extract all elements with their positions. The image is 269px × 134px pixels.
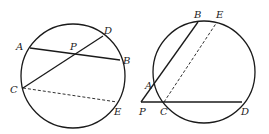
point-label-c: C (160, 106, 168, 117)
point-label-d: D (103, 25, 112, 36)
left-figure: ABDPCE (10, 24, 130, 128)
point-label-b: B (122, 55, 130, 66)
point-label-d: D (240, 106, 249, 117)
right-figure: BEAPCD (138, 9, 255, 123)
point-label-a: A (15, 41, 23, 52)
point-label-e: E (113, 106, 122, 117)
point-label-b: B (193, 9, 201, 20)
segment-cd (23, 36, 103, 88)
circle (153, 21, 255, 123)
segment-ce (164, 22, 217, 102)
segment-ce (23, 88, 117, 102)
geometry-diagram: ABDPCEBEAPCD (0, 0, 269, 134)
point-label-a: A (144, 80, 152, 91)
point-label-c: C (10, 84, 18, 95)
circle (21, 24, 125, 128)
point-label-p: P (69, 41, 77, 52)
point-label-e: E (215, 9, 224, 20)
point-label-p: P (138, 106, 146, 117)
